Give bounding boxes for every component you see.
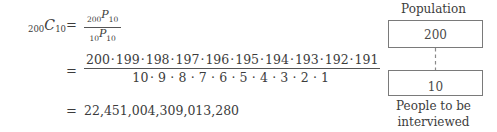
equals-sign-line3: =	[66, 103, 77, 118]
caption-line-1: People to be	[370, 98, 497, 114]
permutation-numerator: 200P10	[84, 9, 121, 27]
num-right-subscript: 10	[109, 15, 119, 24]
num-left-subscript: 200	[87, 15, 101, 24]
lhs-symbol: C	[44, 17, 55, 33]
permutation-ratio-fraction: 200P10 10P10	[84, 9, 121, 46]
den-left-subscript: 10	[89, 34, 99, 43]
factor: 3	[278, 69, 292, 86]
lhs-left-subscript: 200	[28, 24, 44, 34]
factor: 6	[216, 69, 230, 86]
equals-sign-line1: =	[66, 17, 77, 32]
factor: 194	[265, 52, 289, 67]
combination-derivation: 200C10 = = = 200P10 10P10 200·199·198·19…	[0, 0, 370, 132]
sample-box: 10	[388, 70, 483, 96]
factor: 7	[196, 69, 210, 86]
equals-sign-line2: =	[66, 63, 77, 78]
product-numerator: 200·199·198·197·196·195·194·193·192·191	[84, 51, 380, 68]
factor: 1	[318, 69, 332, 86]
diagram-caption: People to be interviewed	[370, 98, 497, 130]
population-box: 200	[388, 20, 483, 48]
product-denominator: 10·9·8·7·6·5·4·3·2·1	[84, 69, 380, 86]
combination-expression: 200C10	[28, 17, 66, 34]
factor: 198	[146, 52, 170, 67]
den-symbol: P	[99, 27, 106, 40]
factor: 199	[116, 52, 140, 67]
factor: 196	[205, 52, 229, 67]
factor: 193	[295, 52, 319, 67]
population-sample-diagram: Population 200 10 People to be interview…	[370, 0, 497, 132]
factor: 4	[257, 69, 271, 86]
expanded-product-fraction: 200·199·198·197·196·195·194·193·192·191 …	[84, 51, 380, 86]
factor: 192	[325, 52, 349, 67]
factor: 10	[132, 69, 149, 86]
factor: 2	[298, 69, 312, 86]
num-symbol: P	[101, 8, 108, 21]
lhs-right-subscript: 10	[55, 24, 66, 34]
factor: 8	[176, 69, 190, 86]
factor: 200	[86, 52, 110, 67]
factor: 5	[237, 69, 251, 86]
den-right-subscript: 10	[106, 34, 116, 43]
caption-line-2: interviewed	[370, 114, 497, 130]
permutation-denominator: 10P10	[84, 28, 121, 46]
factor: 195	[235, 52, 259, 67]
factor: 9	[155, 69, 169, 86]
result-value: 22,451,004,309,013,280	[84, 103, 239, 118]
factor: 197	[176, 52, 200, 67]
population-title: Population	[370, 2, 497, 16]
